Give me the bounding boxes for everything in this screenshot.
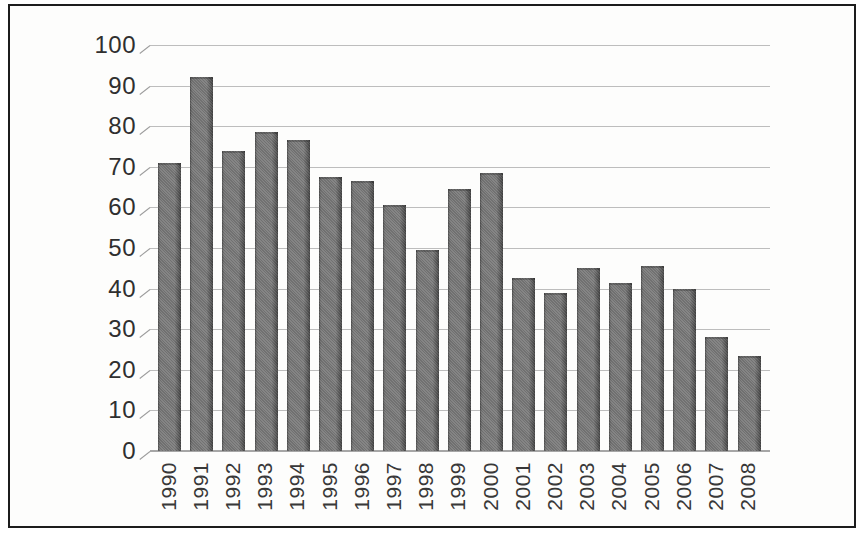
bar-1997: [383, 205, 406, 451]
x-axis-label-1994: 1994: [285, 462, 309, 511]
x-axis-label-2003: 2003: [575, 462, 599, 511]
bar-1996: [351, 181, 374, 451]
x-axis-label-1999: 1999: [446, 462, 470, 511]
figure-canvas: 0102030405060708090100 19901991199219931…: [0, 0, 865, 535]
x-axis-label-1995: 1995: [318, 462, 342, 511]
y-axis-label-0: 0: [64, 439, 136, 463]
bar-2004: [609, 283, 632, 451]
y-axis-label-70: 70: [64, 155, 136, 179]
bar-2003: [577, 268, 600, 451]
bar-1999: [448, 189, 471, 451]
y-axis-label-60: 60: [64, 195, 136, 219]
bar-1990: [158, 163, 181, 451]
bar-2001: [512, 278, 535, 451]
gridline-80: [150, 126, 770, 127]
bar-2000: [480, 173, 503, 451]
gridline-90: [150, 86, 770, 87]
bar-2002: [544, 293, 567, 451]
y-axis-label-40: 40: [64, 277, 136, 301]
x-axis-label-2004: 2004: [607, 462, 631, 511]
x-axis-label-2005: 2005: [640, 462, 664, 511]
bar-2005: [641, 266, 664, 451]
x-axis-label-2000: 2000: [479, 462, 503, 511]
x-axis-label-1998: 1998: [414, 462, 438, 511]
y-axis-label-20: 20: [64, 358, 136, 382]
y-axis-label-50: 50: [64, 236, 136, 260]
bar-2007: [705, 337, 728, 451]
x-axis-label-1990: 1990: [157, 462, 181, 511]
x-axis-label-2008: 2008: [736, 462, 760, 511]
x-axis-label-1993: 1993: [253, 462, 277, 511]
bar-1992: [222, 151, 245, 451]
y-axis-label-90: 90: [64, 74, 136, 98]
x-axis-label-2001: 2001: [511, 462, 535, 511]
y-axis-label-100: 100: [64, 33, 136, 57]
bar-1995: [319, 177, 342, 451]
x-axis-label-1992: 1992: [221, 462, 245, 511]
x-axis-label-2007: 2007: [704, 462, 728, 511]
y-axis-label-30: 30: [64, 317, 136, 341]
x-axis-label-1991: 1991: [189, 462, 213, 511]
x-axis-label-1996: 1996: [350, 462, 374, 511]
bar-1993: [255, 132, 278, 451]
x-axis-label-2006: 2006: [672, 462, 696, 511]
bar-2006: [673, 289, 696, 451]
x-axis-label-1997: 1997: [382, 462, 406, 511]
plot-area: [150, 45, 770, 451]
gridline-100: [150, 45, 770, 46]
bar-1994: [287, 140, 310, 451]
bar-1991: [190, 77, 213, 451]
y-axis-label-10: 10: [64, 398, 136, 422]
bar-2008: [738, 356, 761, 451]
y-axis-label-80: 80: [64, 114, 136, 138]
x-axis-label-2002: 2002: [543, 462, 567, 511]
bar-1998: [416, 250, 439, 451]
